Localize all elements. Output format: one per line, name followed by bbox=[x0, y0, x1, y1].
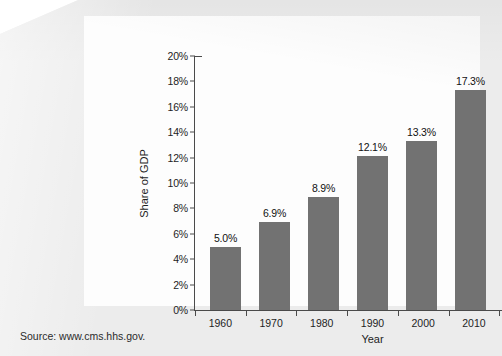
x-tick-mark bbox=[499, 311, 500, 316]
chart-figure: Share of GDP 0%2%4%6%8%10%12%14%16%18%20… bbox=[84, 16, 480, 306]
bar-group: 5.0% bbox=[201, 56, 250, 310]
x-tick-mark bbox=[296, 311, 297, 316]
x-axis-label: Year bbox=[195, 333, 502, 345]
bar bbox=[455, 90, 486, 310]
scanned-page: Share of GDP 0%2%4%6%8%10%12%14%16%18%20… bbox=[0, 0, 502, 356]
x-tick-label: 2010 bbox=[462, 317, 485, 329]
y-tick-label: 8% bbox=[173, 202, 188, 214]
y-tick-label: 2% bbox=[173, 279, 188, 291]
x-tick-label: 1980 bbox=[310, 317, 333, 329]
bar bbox=[210, 247, 241, 311]
plot-area: 0%2%4%6%8%10%12%14%16%18%20% 5.0%6.9%8.9… bbox=[194, 56, 502, 311]
bar-group: 8.9% bbox=[299, 56, 348, 310]
y-tick-label: 20% bbox=[168, 50, 188, 62]
bar-value-label: 5.0% bbox=[214, 232, 237, 244]
y-axis-label: Share of GDP bbox=[136, 56, 152, 311]
bar-value-label: 8.9% bbox=[312, 182, 335, 194]
bar bbox=[308, 197, 339, 310]
y-tick-label: 12% bbox=[168, 152, 188, 164]
x-tick-mark bbox=[195, 311, 196, 316]
bar-group: 17.3% bbox=[446, 56, 495, 310]
y-tick-label: 18% bbox=[168, 75, 188, 87]
bar bbox=[357, 156, 388, 310]
y-tick-label: 4% bbox=[173, 253, 188, 265]
y-tick-label: 10% bbox=[168, 177, 188, 189]
x-tick-mark bbox=[398, 311, 399, 316]
x-tick-label: 1990 bbox=[361, 317, 384, 329]
source-note: Source: www.cms.hhs.gov. bbox=[20, 330, 145, 342]
bar-value-label: 13.3% bbox=[407, 126, 436, 138]
bar-group: 6.9% bbox=[250, 56, 299, 310]
bar-group: 17.5% bbox=[495, 56, 502, 310]
y-tick-label: 16% bbox=[168, 101, 188, 113]
x-tick-mark bbox=[246, 311, 247, 316]
x-tick-mark bbox=[449, 311, 450, 316]
x-tick-mark bbox=[347, 311, 348, 316]
bar bbox=[259, 222, 290, 310]
bar-value-label: 12.1% bbox=[358, 141, 387, 153]
bar bbox=[406, 141, 437, 310]
bar-group: 12.1% bbox=[348, 56, 397, 310]
x-tick-label: 1960 bbox=[209, 317, 232, 329]
x-tick-label: 1970 bbox=[259, 317, 282, 329]
y-tick-label: 6% bbox=[173, 228, 188, 240]
bar-value-label: 6.9% bbox=[263, 207, 286, 219]
y-tick-label: 0% bbox=[173, 304, 188, 316]
x-tick-label: 2000 bbox=[412, 317, 435, 329]
y-tick-label: 14% bbox=[168, 126, 188, 138]
bar-value-label: 17.3% bbox=[456, 75, 485, 87]
bar-group: 13.3% bbox=[397, 56, 446, 310]
bar-series: 5.0%6.9%8.9%12.1%13.3%17.3%17.5% bbox=[195, 56, 502, 310]
